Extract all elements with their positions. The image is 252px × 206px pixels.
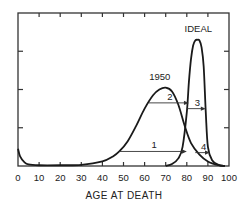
arrow-label-2: 2: [167, 91, 172, 102]
x-tick-label: 30: [76, 172, 87, 183]
plot-frame: [18, 13, 229, 166]
x-tick-label: 0: [15, 172, 20, 183]
series-label-ideal: IDEAL: [185, 23, 212, 34]
arrowhead-1: [182, 149, 187, 153]
x-tick-label: 70: [160, 172, 171, 183]
arrow-label-3: 3: [195, 97, 200, 108]
x-tick-label: 50: [118, 172, 129, 183]
series-label-1950: 1950: [149, 71, 170, 82]
age-at-death-chart: 0102030405060708090100 1950IDEAL1234 AGE…: [0, 0, 252, 206]
arrow-label-4: 4: [201, 141, 206, 152]
x-tick-label: 100: [221, 172, 237, 183]
x-axis-label: AGE AT DEATH: [85, 190, 162, 201]
x-tick-label: 80: [182, 172, 193, 183]
x-tick-label: 10: [34, 172, 45, 183]
x-tick-label: 90: [203, 172, 214, 183]
x-tick-label: 40: [97, 172, 108, 183]
x-tick-label: 60: [139, 172, 150, 183]
arrow-label-1: 1: [151, 139, 156, 150]
x-tick-label: 20: [55, 172, 66, 183]
